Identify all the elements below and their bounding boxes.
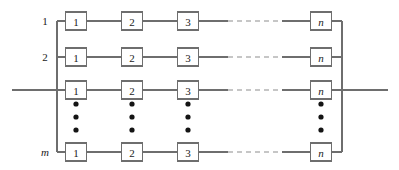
block-label: 3	[185, 85, 191, 97]
component-block: 1	[66, 12, 87, 30]
ellipsis-dot	[73, 101, 78, 106]
row-index-labels: 12m	[41, 15, 49, 158]
block-label: 3	[185, 52, 191, 64]
ellipsis-dot	[73, 127, 78, 132]
vertical-ellipsis-dots	[73, 101, 323, 132]
block-label: 3	[185, 147, 191, 159]
ellipsis-dot	[318, 127, 323, 132]
block-label: 2	[129, 52, 135, 64]
diagram-canvas: 123n123n123n123n 12m	[0, 0, 399, 170]
component-block: 1	[66, 81, 87, 99]
block-label: 1	[73, 16, 79, 28]
component-block: 3	[178, 48, 199, 66]
row-index-label: m	[41, 146, 49, 158]
ellipsis-col-3	[185, 101, 190, 132]
row-index-label: 1	[42, 15, 48, 27]
block-label: n	[318, 147, 324, 159]
ellipsis-dot	[73, 114, 78, 119]
block-label: n	[318, 85, 324, 97]
ellipsis-col-n	[318, 101, 323, 132]
vertical-buses	[57, 21, 342, 152]
row-index-label: 2	[42, 51, 48, 63]
ellipsis-dot	[129, 127, 134, 132]
ellipsis-dot	[318, 101, 323, 106]
block-label: n	[318, 16, 324, 28]
row-wires	[57, 21, 342, 152]
component-block: n	[311, 48, 332, 66]
reliability-block-diagram: 123n123n123n123n 12m	[0, 0, 399, 170]
block-label: 1	[73, 52, 79, 64]
component-block: 3	[178, 143, 199, 161]
ellipsis-dot	[129, 101, 134, 106]
component-block: 2	[122, 143, 143, 161]
block-label: n	[318, 52, 324, 64]
block-label: 2	[129, 85, 135, 97]
component-block: 1	[66, 48, 87, 66]
block-label: 1	[73, 147, 79, 159]
ellipsis-dot	[185, 127, 190, 132]
block-label: 2	[129, 147, 135, 159]
ellipsis-dot	[185, 101, 190, 106]
component-block: 3	[178, 81, 199, 99]
component-blocks: 123n123n123n123n	[66, 12, 332, 161]
component-block: n	[311, 143, 332, 161]
ellipsis-col-1	[73, 101, 78, 132]
component-block: 2	[122, 81, 143, 99]
component-block: 2	[122, 12, 143, 30]
block-label: 2	[129, 16, 135, 28]
component-block: n	[311, 81, 332, 99]
component-block: 3	[178, 12, 199, 30]
ellipsis-dot	[185, 114, 190, 119]
component-block: 1	[66, 143, 87, 161]
block-label: 1	[73, 85, 79, 97]
component-block: n	[311, 12, 332, 30]
ellipsis-col-2	[129, 101, 134, 132]
component-block: 2	[122, 48, 143, 66]
ellipsis-dot	[318, 114, 323, 119]
block-label: 3	[185, 16, 191, 28]
ellipsis-dot	[129, 114, 134, 119]
